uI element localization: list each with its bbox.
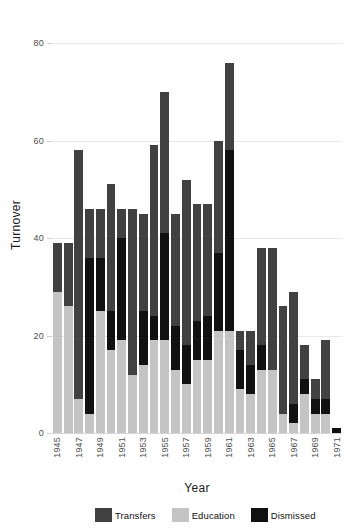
bar-segment-transfers [64, 243, 73, 306]
bar-segment-dismissed [289, 404, 298, 424]
bar-segment-education [85, 414, 94, 434]
bar-1948 [85, 209, 94, 433]
bar-1959 [203, 204, 212, 433]
bar-segment-transfers [160, 92, 169, 233]
bar-1969 [311, 379, 320, 433]
bar-segment-transfers [203, 204, 212, 316]
bar-segment-dismissed [96, 258, 105, 312]
x-axis: 1945194719491951195319551957195919611963… [52, 435, 342, 481]
y-tick-label: 20 [34, 331, 44, 341]
bar-segment-transfers [117, 209, 126, 238]
bar-1952 [128, 209, 137, 433]
y-tick-label: 60 [34, 136, 44, 146]
x-tick-label: 1955 [160, 437, 170, 458]
legend-item-dismissed[interactable]: Dismissed [251, 508, 316, 522]
bar-segment-education [289, 423, 298, 433]
bar-segment-dismissed [139, 311, 148, 365]
bar-segment-dismissed [214, 253, 223, 331]
bar-segment-transfers [74, 150, 83, 399]
x-tick-label: 1953 [138, 437, 148, 458]
bar-segment-education [171, 370, 180, 433]
legend-label: Education [192, 510, 235, 521]
x-tick-label: 1961 [224, 437, 234, 458]
bar-segment-education [96, 311, 105, 433]
bar-1958 [193, 204, 202, 433]
bar-segment-education [300, 394, 309, 433]
bar-1954 [150, 145, 159, 433]
bar-segment-dismissed [85, 258, 94, 414]
bar-segment-dismissed [182, 345, 191, 384]
chart-legend: TransfersEducationDismissed [95, 506, 350, 524]
bar-segment-transfers [279, 306, 288, 413]
bar-1967 [289, 292, 298, 433]
bar-segment-transfers [289, 292, 298, 404]
bar-1961 [225, 63, 234, 434]
bar-1956 [171, 214, 180, 433]
bar-segment-education [182, 384, 191, 433]
legend-item-transfers[interactable]: Transfers [95, 508, 156, 522]
legend-swatch-icon [95, 508, 112, 522]
bar-1957 [182, 180, 191, 434]
bar-segment-transfers [246, 331, 255, 365]
bar-1966 [279, 306, 288, 433]
bar-segment-education [214, 331, 223, 433]
bar-segment-transfers [268, 248, 277, 370]
bar-segment-education [160, 340, 169, 433]
bar-group [52, 43, 342, 433]
bar-1947 [74, 150, 83, 433]
bar-segment-transfers [225, 63, 234, 151]
legend-item-education[interactable]: Education [172, 508, 235, 522]
bar-segment-transfers [53, 243, 62, 292]
gridline [52, 433, 342, 434]
y-tick-label: 40 [34, 233, 44, 243]
bar-segment-transfers [311, 379, 320, 399]
bar-segment-transfers [321, 340, 330, 399]
bar-segment-transfers [214, 141, 223, 253]
bar-segment-education [53, 292, 62, 433]
bar-segment-dismissed [257, 345, 266, 369]
bar-segment-transfers [128, 209, 137, 375]
bar-1946 [64, 243, 73, 433]
bar-segment-transfers [257, 248, 266, 346]
bar-segment-dismissed [150, 316, 159, 340]
bar-segment-dismissed [193, 321, 202, 360]
bar-1951 [117, 209, 126, 433]
x-tick-label: 1957 [181, 437, 191, 458]
bar-segment-dismissed [246, 365, 255, 394]
bar-segment-dismissed [321, 399, 330, 414]
bar-1968 [300, 345, 309, 433]
bar-1964 [257, 248, 266, 433]
legend-swatch-icon [172, 508, 189, 522]
bar-segment-education [279, 414, 288, 434]
bar-segment-dismissed [160, 233, 169, 340]
y-tick-label: 0 [39, 428, 44, 438]
bar-segment-transfers [171, 214, 180, 326]
bar-segment-education [236, 389, 245, 433]
bar-segment-transfers [236, 331, 245, 351]
bar-segment-dismissed [107, 311, 116, 350]
bar-1971 [332, 428, 341, 433]
bar-1965 [268, 248, 277, 433]
bar-1953 [139, 214, 148, 433]
bar-segment-education [74, 399, 83, 433]
bar-1962 [236, 331, 245, 433]
y-tick-label: 80 [34, 38, 44, 48]
bar-segment-education [257, 370, 266, 433]
bar-1950 [107, 184, 116, 433]
x-tick-label: 1951 [117, 437, 127, 458]
x-tick-label: 1969 [310, 437, 320, 458]
bar-segment-dismissed [117, 238, 126, 340]
bar-segment-transfers [107, 184, 116, 311]
x-tick-label: 1965 [267, 437, 277, 458]
bar-segment-education [321, 414, 330, 434]
bar-segment-transfers [85, 209, 94, 258]
bar-segment-dismissed [311, 399, 320, 414]
x-tick-label: 1971 [332, 437, 342, 458]
bar-segment-dismissed [225, 150, 234, 330]
bar-segment-education [64, 306, 73, 433]
bar-segment-dismissed [236, 350, 245, 389]
y-axis-title: Turnover [9, 165, 23, 285]
bar-segment-dismissed [203, 316, 212, 360]
bar-segment-education [246, 394, 255, 433]
bar-segment-education [193, 360, 202, 433]
